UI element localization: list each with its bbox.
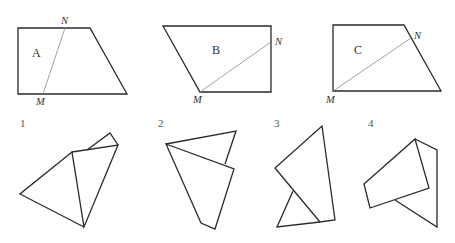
figure-2-number: 2	[158, 117, 164, 129]
folded-figure-3: 3	[274, 117, 335, 227]
shape-b: B N M	[163, 26, 283, 105]
figure-1-front-piece	[72, 145, 118, 227]
figure-4-number: 4	[368, 117, 374, 129]
shape-c: C N M	[325, 25, 441, 105]
diagram-canvas: A N M B N M C N M 1 2 3 4	[0, 0, 455, 243]
figure-3-number: 3	[274, 117, 280, 129]
shape-b-outline	[163, 26, 271, 92]
shape-a-outline	[18, 28, 127, 94]
shape-b-fold-line	[200, 42, 271, 92]
shape-c-point-n: N	[413, 30, 422, 41]
shape-c-label: C	[354, 43, 362, 57]
figure-1-number: 1	[20, 117, 26, 129]
folded-figure-2: 2	[158, 117, 236, 229]
shape-c-outline	[333, 25, 441, 91]
folded-figure-1: 1	[20, 117, 118, 227]
folded-figure-4: 4	[364, 117, 437, 227]
shape-a-point-n: N	[60, 15, 69, 26]
shape-a-fold-line	[43, 28, 65, 94]
figure-4-front-piece	[364, 139, 429, 208]
shape-a-label: A	[32, 46, 41, 60]
shape-b-point-m: M	[192, 94, 203, 105]
shape-b-label: B	[212, 43, 220, 57]
figure-3-main-piece	[275, 126, 335, 222]
shape-b-point-n: N	[274, 36, 283, 47]
shape-c-point-m: M	[325, 94, 336, 105]
figure-4-back-piece	[395, 139, 437, 227]
figure-2-front-piece	[166, 144, 234, 229]
shape-c-fold-line	[333, 38, 411, 91]
shape-a: A N M	[18, 15, 127, 107]
shape-a-point-m: M	[35, 96, 46, 107]
